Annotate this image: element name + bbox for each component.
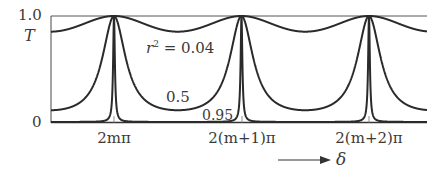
y-tick-label-bottom: 0 [32, 115, 42, 130]
y-tick-label-top: 1.0 [18, 8, 42, 23]
curve-label-0.95: 0.95 [202, 108, 233, 122]
x-tick-label-2: 2(m+2)π [335, 131, 402, 146]
curves-group [51, 16, 427, 122]
curve-label-r2-0.04: r2 = 0.04 [146, 40, 214, 56]
delta-arrow-head-icon [320, 156, 331, 164]
x-axis-label: δ [336, 151, 346, 168]
y-axis-label: T [24, 28, 35, 44]
x-tick-label-0: 2mπ [97, 131, 131, 146]
airy-transmission-chart [0, 0, 448, 184]
curve-label-0.5: 0.5 [166, 90, 190, 105]
x-tick-label-1: 2(m+1)π [208, 131, 275, 146]
curve-label-value: = 0.04 [159, 39, 215, 57]
